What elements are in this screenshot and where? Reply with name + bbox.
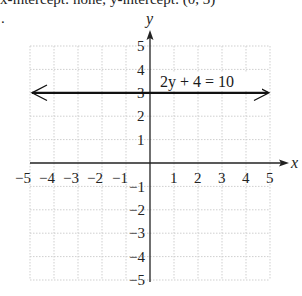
y-tick-label: −4: [129, 249, 145, 265]
x-tick-label: 4: [242, 170, 250, 186]
y-tick-label: 1: [137, 132, 145, 148]
x-tick-label: −2: [87, 170, 103, 186]
y-tick-label: 2: [137, 108, 145, 124]
x-axis: x: [30, 154, 298, 171]
coordinate-plane: x y −5 −4 −3 −2 −1 1 2 3 4 5 5 4 3 2 1 −…: [0, 0, 302, 296]
y-tick-label: −5: [129, 272, 145, 288]
equation-label: 2y + 4 = 10: [160, 73, 234, 91]
x-tick-label: −3: [63, 170, 79, 186]
x-tick-label: −1: [112, 170, 128, 186]
x-axis-label: x: [290, 154, 298, 171]
y-tick-label: 5: [137, 38, 145, 54]
x-tick-label: −4: [39, 170, 55, 186]
x-tick-label: 2: [194, 170, 202, 186]
y-axis-label: y: [144, 10, 154, 28]
x-tick-label: 1: [170, 170, 178, 186]
y-axis: y: [144, 10, 154, 282]
x-tick-label: 3: [218, 170, 226, 186]
y-tick-label: −2: [129, 202, 145, 218]
x-tick-label: 5: [266, 170, 274, 186]
y-tick-label: −3: [129, 225, 145, 241]
y-tick-label: −1: [129, 179, 145, 195]
y-tick-label: 4: [137, 62, 145, 78]
x-tick-label: −5: [15, 170, 31, 186]
